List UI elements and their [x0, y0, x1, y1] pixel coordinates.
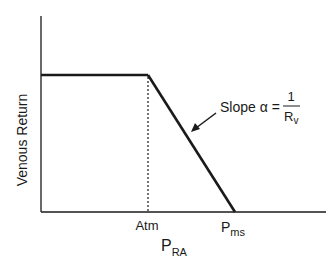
- x-axis-label-main: P: [161, 237, 172, 254]
- venous-return-diagram: Venous Return Atm Pms PRA Slope α = 1 Rv: [0, 0, 334, 270]
- slope-fraction-denominator-sub: v: [293, 115, 298, 126]
- annotation-arrow-shaft: [196, 113, 216, 128]
- tick-label-pms: Pms: [221, 219, 246, 238]
- x-axis-label-sub: RA: [172, 246, 188, 258]
- tick-label-pms-main: P: [221, 219, 230, 235]
- slope-fraction-denominator: Rv: [284, 109, 298, 126]
- x-axis-label: PRA: [161, 237, 188, 258]
- tick-label-pms-sub: ms: [230, 226, 245, 238]
- arrow-head-icon: [191, 123, 200, 132]
- slope-fraction-numerator: 1: [287, 89, 294, 104]
- slope-fraction-denominator-main: R: [284, 109, 293, 124]
- slope-annotation-text: Slope α =: [220, 99, 280, 115]
- slope-line: [148, 75, 235, 212]
- tick-label-atm: Atm: [135, 218, 158, 233]
- y-axis-label: Venous Return: [14, 94, 30, 187]
